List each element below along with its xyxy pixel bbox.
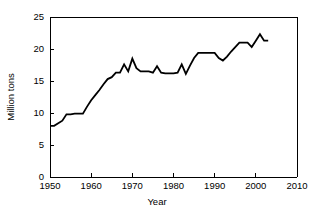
chart-container: 0510152025 1950196019701980199020002010 … bbox=[0, 0, 314, 212]
x-tick-label-1980: 1980 bbox=[163, 180, 184, 191]
x-axis-ticks bbox=[50, 173, 297, 177]
y-axis-title: Million tons bbox=[5, 73, 16, 121]
data-series-group bbox=[50, 34, 268, 126]
y-tick-label-15: 15 bbox=[33, 75, 44, 86]
y-tick-label-10: 10 bbox=[33, 107, 44, 118]
x-axis-title: Year bbox=[147, 196, 166, 207]
x-tick-label-1970: 1970 bbox=[122, 180, 143, 191]
x-axis-tick-labels: 1950196019701980199020002010 bbox=[39, 180, 307, 191]
x-tick-label-1950: 1950 bbox=[39, 180, 60, 191]
y-tick-label-25: 25 bbox=[33, 11, 44, 22]
y-tick-label-20: 20 bbox=[33, 43, 44, 54]
y-axis-tick-labels: 0510152025 bbox=[33, 11, 44, 182]
y-tick-label-5: 5 bbox=[39, 139, 44, 150]
plot-frame bbox=[50, 17, 297, 177]
y-axis-ticks bbox=[50, 17, 54, 177]
data-line-million-tons bbox=[50, 34, 268, 126]
x-tick-label-1960: 1960 bbox=[81, 180, 102, 191]
x-tick-label-1990: 1990 bbox=[204, 180, 225, 191]
x-tick-label-2010: 2010 bbox=[286, 180, 307, 191]
line-chart: 0510152025 1950196019701980199020002010 … bbox=[0, 0, 314, 212]
x-tick-label-2000: 2000 bbox=[245, 180, 266, 191]
